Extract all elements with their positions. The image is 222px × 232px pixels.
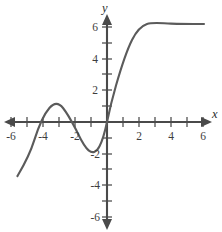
y-tick-label-neg4: -4 (90, 179, 100, 191)
function-curve (17, 23, 204, 176)
x-tick-label-neg6: -6 (6, 130, 16, 142)
x-axis-label: x (211, 107, 218, 121)
x-tick-label-neg4: -4 (38, 130, 48, 142)
x-tick-label-pos4: 4 (168, 130, 174, 142)
y-tick-label-pos4: 4 (92, 53, 98, 65)
y-tick-label-pos6: 6 (92, 21, 98, 33)
y-axis-bottom-arrowhead (102, 219, 112, 230)
y-tick-label-neg2: -2 (90, 148, 100, 160)
x-tick-label-pos2: 2 (136, 130, 142, 142)
x-tick-label-pos6: 6 (200, 130, 206, 142)
y-axis-label: y (100, 1, 108, 15)
graph-figure: -6 -4 -2 2 4 6 6 4 2 -2 -4 -6 x y (0, 0, 222, 232)
y-tick-label-pos2: 2 (92, 84, 98, 96)
coordinate-plane: -6 -4 -2 2 4 6 6 4 2 -2 -4 -6 x y (0, 0, 222, 232)
y-tick-label-neg6: -6 (90, 211, 100, 223)
x-axis-left-arrowhead (4, 117, 15, 127)
x-tick-label-neg2: -2 (70, 130, 80, 142)
y-axis-top-arrowhead (102, 14, 112, 25)
